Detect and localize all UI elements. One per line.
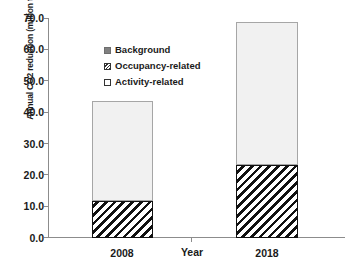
x-tick-label-2018: 2018 bbox=[222, 247, 312, 259]
bar-segment-activity-related-2008 bbox=[92, 201, 153, 238]
hatched-square-icon bbox=[104, 63, 111, 70]
plot-area bbox=[0, 0, 353, 271]
legend-label: Background bbox=[115, 45, 170, 55]
legend-item-background: Background bbox=[104, 42, 201, 58]
x-axis-title: Year bbox=[162, 246, 222, 258]
legend-label: Occupancy-related bbox=[115, 61, 201, 71]
bar-segment-background-2018 bbox=[236, 22, 298, 165]
legend-item-activity-related: Activity-related bbox=[104, 74, 201, 90]
x-tick-label-2008: 2008 bbox=[77, 247, 167, 259]
legend-label: Activity-related bbox=[115, 77, 184, 87]
white-square-icon bbox=[104, 79, 111, 86]
legend: Background Occupancy-related Activity-re… bbox=[104, 42, 201, 90]
bar-segment-activity-related-2018 bbox=[236, 165, 298, 238]
bar-2018 bbox=[236, 18, 298, 238]
bar-segment-background-2008 bbox=[92, 101, 153, 201]
legend-item-occupancy-related: Occupancy-related bbox=[104, 58, 201, 74]
solid-gray-square-icon bbox=[104, 47, 111, 54]
bar-chart: Annual CO2 reduction (million tons/year)… bbox=[0, 0, 353, 271]
